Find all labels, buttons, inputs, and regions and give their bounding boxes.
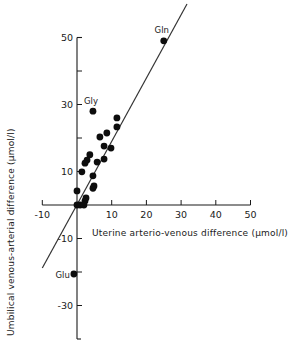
y-tick-label: 50 (61, 32, 73, 43)
data-point (78, 168, 85, 175)
data-point (81, 202, 88, 209)
data-point (101, 156, 108, 163)
x-tick-label: 20 (140, 209, 152, 220)
data-point (97, 134, 104, 141)
x-axis-title: Uterine arterio-venous difference (μmol/… (92, 228, 288, 238)
data-point (70, 271, 77, 278)
y-tick-label: -30 (57, 300, 73, 311)
data-point (91, 183, 98, 190)
data-point (114, 115, 121, 122)
y-tick-label: 10 (61, 166, 73, 177)
data-point (90, 108, 97, 115)
data-point (160, 37, 167, 44)
data-point (74, 188, 81, 195)
x-tick-label: 40 (210, 209, 222, 220)
data-point (101, 143, 108, 150)
labels: GlnGlyGluUterine arterio-venous differen… (6, 25, 288, 336)
data-point (82, 160, 89, 167)
x-tick-label: -10 (35, 209, 51, 220)
scatter-chart: -101020304050503010-10-30 GlnGlyGluUteri… (0, 0, 290, 347)
data-point (103, 130, 110, 137)
axes (42, 38, 250, 340)
data-point (90, 172, 97, 179)
x-tick-label: 10 (106, 209, 118, 220)
data-point (114, 124, 121, 131)
data-point (108, 145, 115, 152)
y-axis-title: Umbilical venous-arterial difference (μm… (6, 128, 16, 336)
data-points (70, 37, 167, 277)
point-label-gly: Gly (84, 96, 98, 106)
x-tick-label: 30 (175, 209, 187, 220)
point-label-glu: Glu (56, 270, 70, 280)
data-point (94, 159, 101, 166)
x-tick-label: 50 (244, 209, 256, 220)
point-label-gln: Gln (155, 25, 169, 35)
y-tick-label: -10 (57, 233, 73, 244)
y-tick-label: 30 (61, 99, 73, 110)
